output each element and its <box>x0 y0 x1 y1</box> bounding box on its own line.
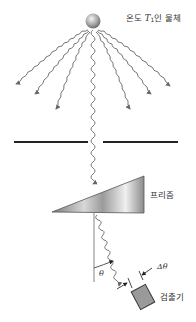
wave-right-2 <box>97 31 151 94</box>
angle-arc <box>94 261 113 268</box>
wave-far-right <box>98 30 170 86</box>
source-label-suffix: 인 물체 <box>154 13 181 23</box>
diffraction-diagram <box>0 0 196 322</box>
wave-left-3 <box>56 32 90 109</box>
source-label-prefix: 온도 <box>126 13 145 23</box>
detector <box>131 284 155 309</box>
source-sphere <box>86 14 101 29</box>
wave-left-2 <box>35 31 89 94</box>
delta-theta-label: Δθ <box>157 263 168 271</box>
source-label: 온도 T1인 물체 <box>126 14 181 23</box>
emitted-waves <box>16 30 170 184</box>
theta-label: θ <box>99 270 104 278</box>
wave-right-3 <box>96 32 130 109</box>
prism-label: 프리즘 <box>150 191 174 200</box>
wave-far-left <box>16 30 88 84</box>
detector-label: 검출기 <box>160 293 184 302</box>
delta-theta-indicator <box>117 268 152 289</box>
wave-center <box>91 30 95 184</box>
prism <box>52 176 144 213</box>
